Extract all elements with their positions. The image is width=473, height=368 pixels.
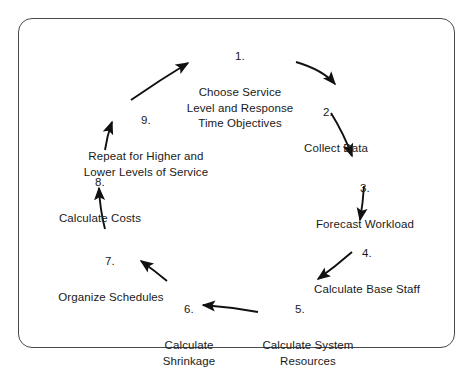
step-4-number: 4.	[300, 246, 434, 261]
step-1-number: 1.	[177, 49, 303, 64]
step-5-number: 5.	[230, 302, 370, 317]
cycle-diagram: 1. Choose Service Level and Response Tim…	[0, 0, 473, 368]
step-9-label: Repeat for Higher and Lower Levels of Se…	[72, 149, 220, 179]
step-7-label: Organize Schedules	[50, 290, 172, 305]
step-2-label: Collect Data	[286, 141, 386, 156]
cycle-step-9: 9. Repeat for Higher and Lower Levels of…	[72, 92, 220, 201]
step-7-number: 7.	[48, 254, 172, 269]
cycle-step-5: 5. Calculate System Resources	[246, 281, 370, 368]
step-5-label: Calculate System Resources	[246, 338, 370, 368]
step-9-number: 9.	[72, 113, 220, 128]
step-6-label: Calculate Shrinkage	[146, 338, 232, 368]
step-2-number: 2.	[270, 105, 386, 120]
step-8-label: Calculate Costs	[45, 211, 155, 226]
step-3-number: 3.	[304, 181, 426, 196]
